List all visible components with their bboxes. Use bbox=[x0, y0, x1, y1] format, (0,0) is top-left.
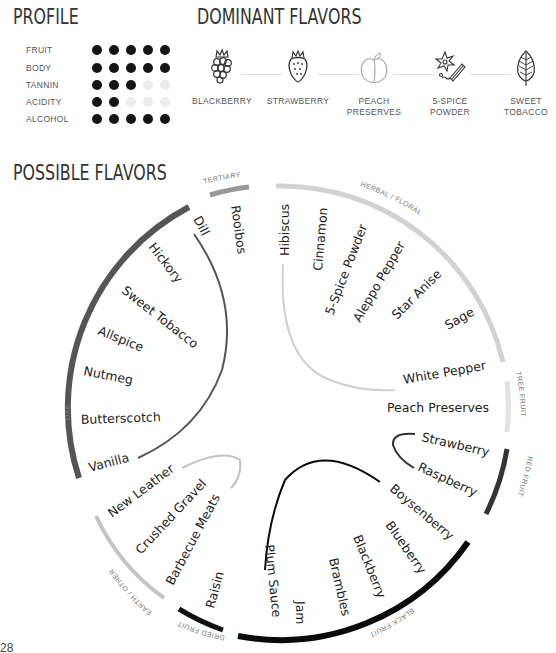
flavor-nutmeg: Nutmeg bbox=[82, 363, 134, 387]
flavor-vanilla: Vanilla bbox=[87, 450, 131, 475]
flavor-wheel: OAK TERTIARY HERBAL / FLORAL TREE FRUIT … bbox=[0, 0, 556, 653]
flavor-hickory: Hickory bbox=[146, 240, 187, 287]
category-label-oak: OAK bbox=[64, 404, 71, 420]
flavor-sage: Sage bbox=[442, 304, 477, 333]
flavor-allspice: Allspice bbox=[96, 323, 146, 355]
flavor-white-pepper: White Pepper bbox=[402, 357, 488, 386]
arc-tertiary bbox=[210, 187, 249, 195]
category-label-red-fruit: RED FRUIT bbox=[516, 456, 534, 498]
flavor-brambles: Brambles bbox=[326, 556, 354, 617]
flavor-rooibos: Rooibos bbox=[228, 204, 250, 255]
page-number: 28 bbox=[0, 641, 13, 653]
flavor-star-anise: Star Anise bbox=[389, 266, 445, 322]
flavor-raisin: Raisin bbox=[202, 570, 226, 610]
flavor-raspberry: Raspberry bbox=[416, 459, 481, 500]
category-label-tertiary: TERTIARY bbox=[202, 171, 241, 185]
flavor-cinnamon: Cinnamon bbox=[310, 207, 330, 272]
arc-red-fruit bbox=[486, 449, 507, 514]
flavor-plum-sauce: Plum Sauce bbox=[262, 544, 285, 619]
arc-tree-fruit bbox=[507, 381, 508, 432]
flavor-hibiscus: Hibiscus bbox=[277, 204, 292, 256]
curve-red-fruit bbox=[393, 434, 415, 468]
flavor-jam: Jam bbox=[293, 600, 308, 625]
category-label-herbal-floral: HERBAL / FLORAL bbox=[360, 180, 424, 216]
flavor-butterscotch: Butterscotch bbox=[81, 409, 161, 427]
category-label-tree-fruit: TREE FRUIT bbox=[515, 371, 527, 418]
flavor-strawberry: Strawberry bbox=[420, 429, 491, 459]
flavor-blackberry: Blackberry bbox=[350, 533, 389, 601]
flavor-blueberry: Blueberry bbox=[383, 518, 430, 577]
flavor-peach-preserves: Peach Preserves bbox=[387, 400, 489, 415]
category-label-earth-other: EARTH / OTHER bbox=[107, 568, 152, 617]
